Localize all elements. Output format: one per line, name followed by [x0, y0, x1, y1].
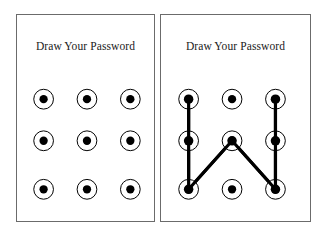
pattern-node-dot-icon: [184, 185, 193, 195]
password-pattern-figure: Draw Your Password Draw Your Password: [0, 0, 327, 244]
grid-node-middle-left[interactable]: [34, 131, 54, 151]
node-dot-icon: [39, 137, 47, 145]
node-dot-icon: [126, 137, 134, 145]
grid-node-bottom-right[interactable]: [120, 179, 140, 199]
pattern-grid-empty[interactable]: [17, 15, 154, 221]
pattern-node-dot-icon: [271, 94, 280, 104]
node-dot-icon: [83, 137, 91, 145]
pattern-node-dot-icon: [184, 94, 193, 104]
node-dot-icon: [83, 185, 91, 193]
node-dot-icon: [228, 185, 236, 193]
grid-node-top-right[interactable]: [120, 89, 140, 109]
pattern-node-dot-icon: [271, 136, 280, 146]
grid-node-bottom-center[interactable]: [222, 179, 242, 199]
node-dot-icon: [126, 95, 134, 103]
pattern-node-dot-icon: [271, 185, 280, 195]
pattern-grid-panel[interactable]: Draw Your Password: [160, 14, 311, 222]
grid-node-bottom-center[interactable]: [77, 179, 97, 199]
grid-node-top-left[interactable]: [34, 89, 54, 109]
grid-node-top-center[interactable]: [77, 89, 97, 109]
grid-node-bottom-left[interactable]: [34, 179, 54, 199]
pattern-node-dot-icon: [184, 136, 193, 146]
empty-grid-panel[interactable]: Draw Your Password: [16, 14, 155, 222]
node-dot-icon: [39, 95, 47, 103]
pattern-grid-drawn[interactable]: [161, 15, 310, 221]
grid-node-middle-right[interactable]: [120, 131, 140, 151]
grid-node-middle-center[interactable]: [77, 131, 97, 151]
grid-node-top-center[interactable]: [222, 89, 242, 109]
node-dot-icon: [39, 185, 47, 193]
node-dot-icon: [228, 95, 236, 103]
node-dot-icon: [83, 95, 91, 103]
node-dot-icon: [126, 185, 134, 193]
pattern-node-dot-icon: [227, 136, 236, 146]
